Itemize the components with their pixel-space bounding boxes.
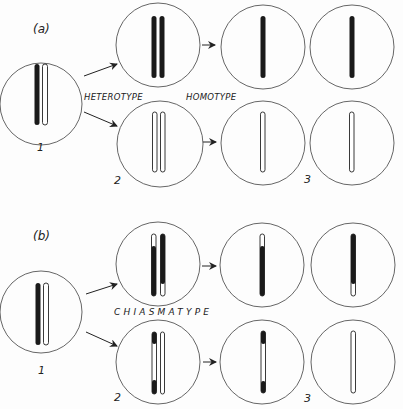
dark-chromatid-icon: [152, 16, 157, 78]
panel-a-bottom-stage3-cell-1: [221, 101, 305, 185]
arrow-icon: [84, 64, 117, 76]
panel-a: (a) 1 HETEROTYPE HOMOTYPE: [0, 3, 394, 187]
light-chromatid-icon: [161, 332, 165, 394]
arrow-icon: [86, 284, 117, 294]
light-chromatid-icon: [261, 112, 266, 172]
arrow-icon: [86, 332, 117, 346]
panel-b-bottom-stage3-cell-1: [220, 320, 304, 404]
arrow-icon: [84, 112, 117, 126]
panel-a-stage2-number: 2: [114, 174, 121, 187]
dark-chromatid-icon: [350, 16, 355, 78]
panel-b-stage2-number: 2: [114, 391, 121, 404]
panel-a-bottom-stage3-cell-2: [310, 101, 394, 185]
panel-a-label: (a): [33, 22, 50, 36]
panel-b-top-stage3-cell-1: [220, 223, 304, 307]
light-chromatid-icon: [153, 112, 158, 172]
panel-a-stage3-number: 3: [304, 173, 311, 186]
homotype-label: HOMOTYPE: [186, 92, 237, 102]
light-chromatid-icon: [351, 331, 356, 393]
panel-a-bottom-stage2-cell: [117, 101, 203, 187]
panel-b-bottom-stage2-cell: [116, 320, 200, 404]
light-chromatid-icon: [350, 112, 355, 172]
dark-chromatid-icon: [160, 16, 165, 78]
panel-a-top-stage2-cell: [116, 3, 200, 87]
panel-b-bottom-stage3-cell-2: [311, 320, 395, 404]
chiasmatype-label: CHIASMATYPE: [114, 307, 212, 317]
panel-a-top-stage3-cell-1: [221, 5, 305, 89]
panel-b-top-stage2-cell: [116, 222, 200, 306]
panel-a-top-stage3-cell-2: [310, 5, 394, 89]
light-chromatid-icon: [161, 112, 166, 172]
panel-b: (b) 1 CHIASMATYPE: [0, 222, 395, 405]
panel-a-stage1-cell: [0, 63, 82, 145]
light-chromosome-icon: [43, 64, 48, 125]
dark-chromosome-icon: [35, 64, 40, 125]
panel-b-stage1-number: 1: [38, 364, 45, 377]
light-chromosome-icon: [44, 283, 49, 345]
heterotype-label: HETEROTYPE: [84, 92, 143, 102]
panel-b-label: (b): [33, 229, 50, 243]
panel-b-top-stage3-cell-2: [311, 223, 395, 307]
dark-chromosome-icon: [36, 283, 41, 345]
dark-chromatid-icon: [261, 16, 266, 78]
meiosis-diagram: (a) 1 HETEROTYPE HOMOTYPE: [0, 0, 403, 409]
panel-b-stage1-cell: [0, 271, 82, 353]
panel-b-stage3-number: 3: [304, 392, 311, 405]
panel-a-stage1-number: 1: [37, 141, 44, 154]
diagram-svg: (a) 1 HETEROTYPE HOMOTYPE: [0, 0, 403, 409]
